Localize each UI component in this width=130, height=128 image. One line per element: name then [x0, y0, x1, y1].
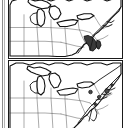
gutter-line-light: [4, 0, 5, 128]
map-top-svg: [9, 0, 122, 58]
delmarva-peninsula-bottom: [92, 109, 97, 121]
figure-page: [0, 0, 130, 128]
point-marker-coastal-maine: [111, 84, 114, 87]
gutter-line-dark: [2, 0, 3, 128]
lake-michigan-bottom: [37, 76, 45, 95]
page-gutter-artifact: [0, 0, 6, 128]
map-bottom-svg: [9, 61, 122, 128]
point-marker-connecticut: [97, 95, 100, 98]
map-panel-top[interactable]: [8, 0, 123, 59]
point-marker-massachusetts: [105, 89, 110, 94]
point-marker-new-york: [89, 90, 93, 94]
map-panel-bottom[interactable]: [8, 60, 123, 128]
point-marker-new-jersey: [94, 103, 97, 106]
highlight-delmarva-top: [96, 40, 101, 49]
lake-michigan-top: [37, 9, 45, 27]
